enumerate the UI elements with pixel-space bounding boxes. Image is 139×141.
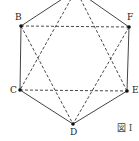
point-D xyxy=(71,122,75,126)
label-B: B xyxy=(15,13,22,22)
edge-CD xyxy=(20,90,73,124)
label-C: C xyxy=(10,86,17,95)
label-E: E xyxy=(132,86,139,95)
edge-EF xyxy=(127,27,129,91)
vertex-points xyxy=(18,24,131,126)
edge-BF xyxy=(21,26,129,27)
label-D: D xyxy=(70,128,77,137)
edge-FA xyxy=(76,0,129,27)
label-F: F xyxy=(127,13,133,22)
edge-DE xyxy=(73,91,127,124)
edge-AE xyxy=(76,0,127,91)
dashed-edges xyxy=(20,0,129,124)
edge-BC xyxy=(20,26,21,90)
figure-caption: 図 I xyxy=(117,124,132,133)
point-E xyxy=(125,89,129,93)
edge-CE xyxy=(20,90,127,91)
edge-FD xyxy=(73,27,129,124)
point-C xyxy=(18,88,22,92)
point-B xyxy=(19,24,23,28)
point-F xyxy=(127,25,131,29)
